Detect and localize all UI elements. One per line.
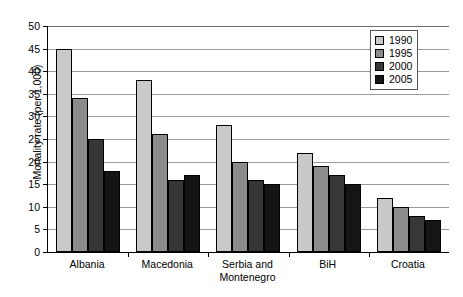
bar[interactable] — [377, 198, 393, 252]
bar-group — [48, 26, 128, 252]
legend-item-label: 2005 — [389, 74, 412, 85]
legend-item[interactable]: 1995 — [375, 47, 412, 60]
bar[interactable] — [168, 180, 184, 252]
bar[interactable] — [329, 175, 345, 252]
bar[interactable] — [297, 153, 313, 252]
legend-item[interactable]: 2000 — [375, 60, 412, 73]
x-axis-label-line: Montenegro — [207, 271, 287, 284]
y-tick-label: 0 — [34, 247, 40, 258]
bar-chart: Mortality rate (per 1,000) 0510152025303… — [0, 0, 463, 297]
bar[interactable] — [152, 134, 168, 252]
x-axis-label: Croatia — [368, 258, 448, 271]
bar[interactable] — [345, 184, 361, 252]
y-tick-label: 45 — [28, 43, 40, 54]
legend-swatch-icon — [375, 75, 384, 84]
x-tick — [289, 252, 290, 257]
x-axis-label: Serbia andMontenegro — [207, 258, 287, 283]
bar[interactable] — [88, 139, 104, 252]
legend-swatch-icon — [375, 36, 384, 45]
bar[interactable] — [232, 162, 248, 252]
bar[interactable] — [248, 180, 264, 252]
y-tick-label: 20 — [28, 156, 40, 167]
bar[interactable] — [425, 220, 441, 252]
legend-item[interactable]: 1990 — [375, 34, 412, 47]
x-axis-label-line: BiH — [288, 258, 368, 271]
y-tick-label: 10 — [28, 202, 40, 213]
legend-swatch-icon — [375, 62, 384, 71]
x-tick — [128, 252, 129, 257]
x-axis-label-line: Macedonia — [127, 258, 207, 271]
x-axis-label: BiH — [288, 258, 368, 271]
x-axis-label: Macedonia — [127, 258, 207, 271]
bar[interactable] — [56, 49, 72, 252]
y-tick-label: 35 — [28, 89, 40, 100]
bar[interactable] — [104, 171, 120, 252]
x-axis-label: Albania — [47, 258, 127, 271]
x-axis-label-line: Croatia — [368, 258, 448, 271]
y-tick-label: 50 — [28, 21, 40, 32]
y-tick-label: 40 — [28, 66, 40, 77]
x-tick — [208, 252, 209, 257]
legend-item-label: 1990 — [389, 35, 412, 46]
x-axis-label-line: Albania — [47, 258, 127, 271]
bar[interactable] — [136, 80, 152, 252]
bar[interactable] — [184, 175, 200, 252]
y-tick — [43, 252, 48, 253]
y-tick-label: 15 — [28, 179, 40, 190]
x-axis-label-line: Serbia and — [207, 258, 287, 271]
x-tick — [369, 252, 370, 257]
bar[interactable] — [393, 207, 409, 252]
legend-swatch-icon — [375, 49, 384, 58]
bar[interactable] — [313, 166, 329, 252]
y-tick-label: 25 — [28, 134, 40, 145]
bar-group — [128, 26, 208, 252]
bar[interactable] — [409, 216, 425, 252]
bar[interactable] — [216, 125, 232, 252]
bar[interactable] — [264, 184, 280, 252]
legend-item-label: 2000 — [389, 61, 412, 72]
legend-item[interactable]: 2005 — [375, 73, 412, 86]
legend-item-label: 1995 — [389, 48, 412, 59]
y-tick-label: 30 — [28, 111, 40, 122]
legend: 1990199520002005 — [370, 30, 418, 90]
bar[interactable] — [72, 98, 88, 252]
bar-group — [208, 26, 288, 252]
bar-group — [289, 26, 369, 252]
y-tick-label: 5 — [34, 224, 40, 235]
